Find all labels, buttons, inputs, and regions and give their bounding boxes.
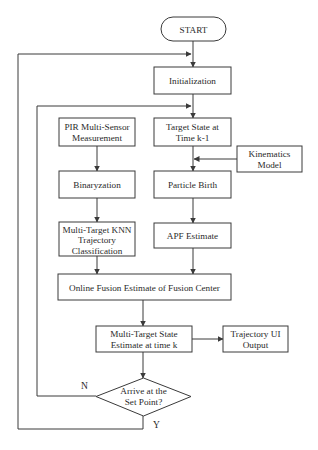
decision-label-line1: Arrive at the [120, 386, 166, 396]
apf-estimate-label: APF Estimate [167, 231, 218, 241]
knn-label-line2: Trajectory [78, 235, 116, 245]
kinematics-label-line1: Kinematics [249, 149, 291, 159]
kinematics-node: Kinematics Model [237, 146, 302, 172]
binaryzation-label: Binaryzation [73, 180, 121, 190]
flowchart: START Initialization PIR Multi-Sensor Me… [0, 0, 318, 450]
no-edge-label: N [81, 381, 88, 391]
knn-label-line3: Classification [72, 246, 123, 256]
pir-label-line2: Measurement [72, 133, 122, 143]
decision-node: Arrive at the Set Point? [96, 378, 191, 416]
initialization-node: Initialization [154, 67, 231, 94]
initialization-label: Initialization [169, 76, 216, 86]
trajectory-ui-label-line2: Output [243, 340, 269, 350]
pir-label-line1: PIR Multi-Sensor [64, 122, 129, 132]
online-fusion-node: Online Fusion Estimate of Fusion Center [58, 274, 231, 300]
apf-estimate-node: APF Estimate [154, 223, 231, 248]
yes-edge-label: Y [153, 420, 160, 430]
particle-birth-label: Particle Birth [168, 180, 218, 190]
knn-classification-node: Multi-Target KNN Trajectory Classificati… [59, 222, 135, 256]
target-state-label-line1: Target State at [166, 122, 219, 132]
pir-measurement-node: PIR Multi-Sensor Measurement [59, 118, 135, 146]
binaryzation-node: Binaryzation [59, 171, 135, 198]
decision-label-line2: Set Point? [125, 397, 163, 407]
multi-target-state-label-line2: Estimate at time k [111, 340, 178, 350]
start-label: START [180, 25, 208, 35]
kinematics-label-line2: Model [258, 160, 282, 170]
particle-birth-node: Particle Birth [154, 171, 231, 198]
multi-target-state-node: Multi-Target State Estimate at time k [96, 326, 192, 352]
online-fusion-label: Online Fusion Estimate of Fusion Center [69, 283, 220, 293]
target-state-label-line2: Time k-1 [176, 133, 210, 143]
multi-target-state-label-line1: Multi-Target State [110, 329, 177, 339]
start-node: START [161, 17, 226, 41]
trajectory-ui-label-line1: Trajectory UI [231, 329, 281, 339]
trajectory-ui-node: Trajectory UI Output [223, 326, 288, 352]
knn-label-line1: Multi-Target KNN [63, 225, 132, 235]
target-state-node: Target State at Time k-1 [154, 118, 231, 146]
